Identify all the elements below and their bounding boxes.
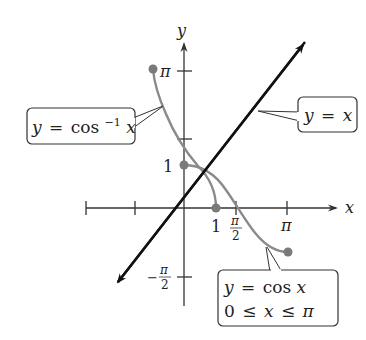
- svg-text:y = cos x: y = cos x: [223, 277, 307, 297]
- y-axis-label: y: [176, 21, 187, 40]
- x-axis-label: x: [345, 198, 354, 217]
- point-cos-start: [180, 161, 189, 170]
- callout-identity: y = x: [258, 97, 357, 132]
- point-arccos-end: [149, 65, 158, 74]
- svg-text:2: 2: [161, 278, 169, 292]
- svg-text:π: π: [230, 214, 240, 228]
- y-axis: [177, 44, 192, 306]
- point-cos-end: [284, 248, 293, 257]
- graph-canvas: y x 1 π 2 π π 1 − π 2 y = cos −1 x: [0, 0, 366, 340]
- y-tick-neg-pi-over-2: − π 2: [147, 263, 171, 292]
- point-arccos-start: [212, 204, 221, 213]
- x-tick-pi: π: [280, 216, 292, 235]
- callout-cos: y = cos x 0 ≤ x ≤ π: [218, 247, 338, 326]
- y-tick-pi: π: [159, 62, 171, 81]
- x-tick-pi-over-2: π 2: [230, 214, 242, 243]
- x-axis: [86, 201, 336, 215]
- y-tick-1: 1: [163, 157, 173, 176]
- callout-arccos: y = cos −1 x: [27, 106, 163, 144]
- svg-text:2: 2: [232, 229, 240, 243]
- svg-text:π: π: [159, 263, 169, 277]
- svg-text:−: −: [147, 270, 158, 285]
- x-tick-1: 1: [211, 217, 221, 236]
- svg-text:y = x: y = x: [303, 105, 353, 125]
